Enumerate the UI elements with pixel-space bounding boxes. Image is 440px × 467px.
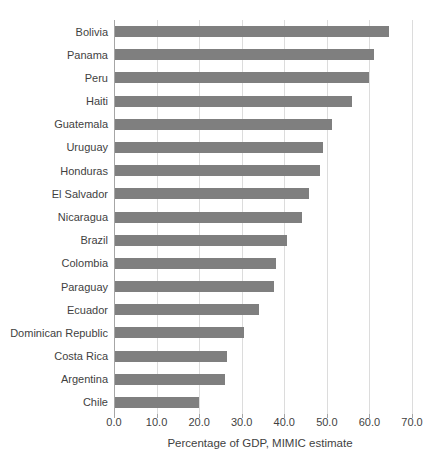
category-label: El Salvador [0,187,108,201]
x-tick-label: 20.0 [177,416,221,429]
bar [115,165,320,176]
bar [115,49,374,60]
plot-area: BoliviaPanamaPeruHaitiGuatemalaUruguayHo… [0,0,440,467]
category-label: Costa Rica [0,349,108,363]
x-tick-label: 0.0 [92,416,136,429]
category-label: Brazil [0,233,108,247]
category-label: Uruguay [0,140,108,154]
category-label: Peru [0,71,108,85]
x-tick-label: 40.0 [262,416,306,429]
category-label: Nicaragua [0,210,108,224]
x-tick-label: 50.0 [305,416,349,429]
bar [115,304,259,315]
category-label: Haiti [0,94,108,108]
category-label: Panama [0,48,108,62]
x-tick-label: 60.0 [347,416,391,429]
x-axis-title: Percentage of GDP, MIMIC estimate [104,437,416,449]
x-tick-label: 10.0 [135,416,179,429]
bar [115,212,302,223]
category-label: Colombia [0,256,108,270]
bar [115,72,369,83]
category-label: Paraguay [0,280,108,294]
category-label: Guatemala [0,117,108,131]
category-label: Ecuador [0,303,108,317]
bar [115,258,276,269]
category-label: Dominican Republic [0,326,108,340]
bar [115,374,225,385]
bar [115,351,227,362]
bar [115,327,244,338]
bar [115,235,287,246]
category-label: Argentina [0,372,108,386]
shadow-economy-bar-chart: BoliviaPanamaPeruHaitiGuatemalaUruguayHo… [0,0,440,467]
bar [115,188,309,199]
bar [115,281,274,292]
gridline [369,20,370,414]
category-label: Chile [0,395,108,409]
category-label: Bolivia [0,25,108,39]
gridline [412,20,413,414]
x-tick-label: 30.0 [220,416,264,429]
x-tick-label: 70.0 [390,416,434,429]
bar [115,96,352,107]
bar [115,119,332,130]
bar [115,397,199,408]
bar [115,26,389,37]
category-label: Honduras [0,164,108,178]
bar [115,142,323,153]
